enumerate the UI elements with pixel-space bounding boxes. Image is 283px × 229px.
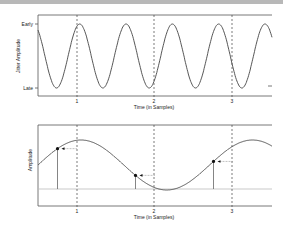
signal-waveform [38,140,272,190]
bottom-panel: Amplitude 1 2 3 Time (in Samples) [27,125,272,220]
xtick-1: 1 [76,98,79,104]
top-xlabel: Time (in Samples) [134,104,175,110]
sample-gridlines [77,125,232,209]
diagram: Early Late Jitter Amplitude 1 2 3 Time (… [0,0,283,229]
bottom-xlabel: Time (in Samples) [134,214,175,220]
ytick-early: Early [22,21,34,27]
ytick-late: Late [23,85,33,91]
top-panel: Early Late Jitter Amplitude 1 2 3 Time (… [15,15,272,110]
xtick-3: 3 [231,98,234,104]
bottom-ylabel: Amplitude [27,149,33,171]
xtick-1: 1 [76,208,79,214]
xtick-3: 3 [231,208,234,214]
jitter-waveform [38,24,272,88]
top-ylabel: Jitter Amplitude [15,39,21,73]
